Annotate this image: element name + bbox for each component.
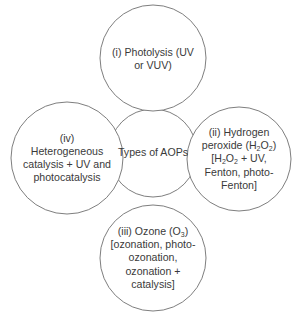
center-label-text: Types of AOPs [118,146,188,159]
node-hydrogen-peroxide: (ii) Hydrogen peroxide (H2O2) [H2O2 + UV… [189,125,289,193]
node-line-formula: [H2O2 + UV, [211,152,266,165]
node-heterogeneous-catalysis: (iv) Heterogeneous catalysis + UV and ph… [14,130,120,186]
center-label: Types of AOPs [109,143,197,163]
node-line: (iv) [60,132,75,145]
node-line: catalysis + UV and [23,158,111,171]
node-photolysis: (i) Photolysis (UV or VUV) [103,45,203,73]
node-line: (ii) Hydrogen [209,126,270,139]
node-line-formula: peroxide (H2O2) [202,139,276,152]
node-line-formula: (iii) Ozone (O3) [118,225,188,238]
node-line: photocatalysis [33,171,100,184]
node-line: ozonation, [129,251,178,264]
node-line: Heterogeneous [31,145,103,158]
node-line: catalysis] [131,278,175,291]
node-line: (i) Photolysis (UV [112,46,194,59]
node-line: Fenton, photo- [205,166,274,179]
node-line: [ozonation, photo- [111,238,196,251]
node-line: ozonation + [125,265,180,278]
node-line: Fenton] [221,179,257,192]
node-ozone: (iii) Ozone (O3) [ozonation, photo- ozon… [103,224,203,292]
node-line: or VUV) [134,59,172,72]
